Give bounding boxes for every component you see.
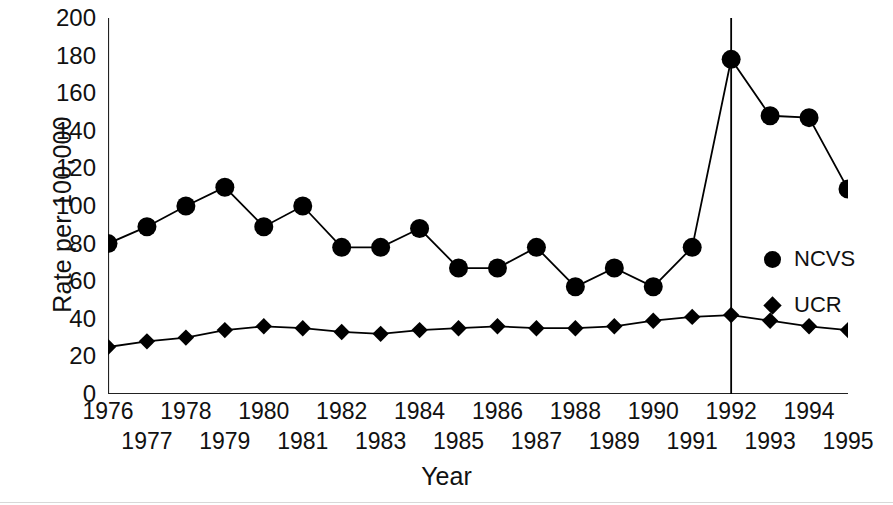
x-tick-label: 1983 [355,430,406,453]
data-point-marker [644,277,663,296]
x-tick-label: 1976 [82,400,133,423]
x-tick-label: 1986 [472,400,523,423]
data-point-marker [450,320,466,336]
x-tick-label: 1981 [277,430,328,453]
x-tick-label: 1985 [433,430,484,453]
data-point-marker [566,277,585,296]
axis-lines [108,18,848,394]
x-tick-label: 1979 [199,430,250,453]
data-point-marker [333,324,349,340]
series-ucr [108,307,848,355]
y-tick-label: 140 [36,119,96,143]
series-ncvs [108,50,848,296]
data-point-marker [108,234,118,253]
legend-item-ucr[interactable]: UCR [762,282,882,328]
plot-svg [108,18,848,394]
diamond-marker-icon [762,294,784,316]
data-point-marker [139,333,155,349]
y-tick-label: 180 [36,44,96,68]
circle-marker-icon [762,248,784,270]
data-point-marker [606,318,622,334]
y-tick-label: 200 [36,6,96,30]
data-point-marker [256,318,272,334]
data-point-marker [605,259,624,278]
x-tick-label: 1989 [589,430,640,453]
x-axis-tick-labels: 1976197719781979198019811982198319841985… [108,394,848,458]
x-tick-label: 1990 [628,400,679,423]
x-tick-label: 1978 [160,400,211,423]
y-axis-tick-labels: 200180160140120100806040200 [36,0,96,505]
x-tick-label: 1988 [550,400,601,423]
x-tick-label: 1987 [511,430,562,453]
data-point-marker [137,217,156,236]
x-tick-label: 1991 [667,430,718,453]
chart-legend: NCVSUCR [762,236,882,328]
y-tick-label: 20 [36,344,96,368]
x-tick-label: 1995 [822,430,873,453]
data-point-marker [527,238,546,257]
data-point-marker [254,217,273,236]
x-tick-label: 1980 [238,400,289,423]
data-point-marker [293,197,312,216]
data-point-marker [723,307,739,323]
legend-item-ncvs[interactable]: NCVS [762,236,882,282]
data-point-marker [178,329,194,345]
data-point-marker [215,178,234,197]
data-point-marker [684,309,700,325]
data-point-marker [108,339,116,355]
data-point-marker [176,197,195,216]
x-tick-label: 1993 [745,430,796,453]
x-tick-label: 1982 [316,400,367,423]
y-tick-label: 100 [36,194,96,218]
data-point-marker [332,238,351,257]
y-tick-label: 80 [36,232,96,256]
scan-artifact-line [0,502,893,503]
series-layer [108,50,848,355]
data-point-marker [839,180,849,199]
data-point-marker [528,320,544,336]
data-point-marker [800,108,819,127]
data-point-marker [372,326,388,342]
data-point-marker [411,322,427,338]
y-tick-label: 160 [36,81,96,105]
y-tick-label: 60 [36,269,96,293]
chart-figure: Rate per 100,000 20018016014012010080604… [0,0,893,505]
data-point-marker [295,320,311,336]
data-point-marker [371,238,390,257]
x-tick-label: 1992 [706,400,757,423]
data-point-marker [489,318,505,334]
data-point-marker [449,259,468,278]
y-tick-label: 40 [36,307,96,331]
y-tick-label: 120 [36,156,96,180]
series-line-ncvs [108,59,848,286]
data-point-marker [488,259,507,278]
x-axis-title: Year [0,462,893,491]
x-tick-label: 1977 [121,430,172,453]
x-tick-label: 1994 [783,400,834,423]
data-point-marker [761,106,780,125]
legend-item-label: NCVS [794,246,855,272]
data-point-marker [722,50,741,69]
data-point-marker [217,322,233,338]
data-point-marker [410,219,429,238]
data-point-marker [683,238,702,257]
plot-area [108,18,848,394]
x-tick-label: 1984 [394,400,445,423]
data-point-marker [567,320,583,336]
data-point-marker [645,312,661,328]
legend-item-label: UCR [794,292,842,318]
